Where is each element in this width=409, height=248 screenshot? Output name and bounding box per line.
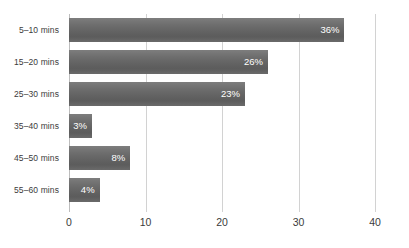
- category-label: 55–60 mins: [14, 184, 59, 196]
- category-label: 15–20 mins: [14, 56, 59, 68]
- value-axis-labels: 010203040: [69, 206, 375, 236]
- category-label: 35–40 mins: [14, 120, 59, 132]
- bar-slot: 23%: [69, 78, 375, 110]
- bar-value-label: 4%: [81, 178, 95, 202]
- category-label: 45–50 mins: [14, 152, 59, 164]
- bar-slot: 26%: [69, 46, 375, 78]
- bar[interactable]: 36%: [69, 18, 344, 42]
- bar-value-label: 3%: [73, 114, 87, 138]
- bar[interactable]: 23%: [69, 82, 245, 106]
- bar-value-label: 23%: [221, 82, 240, 106]
- bar-value-label: 36%: [320, 18, 339, 42]
- x-tick-label: 0: [66, 216, 72, 228]
- category-label: 5–10 mins: [19, 24, 59, 36]
- bar-slot: 3%: [69, 110, 375, 142]
- bar[interactable]: 4%: [69, 178, 100, 202]
- x-tick-label: 20: [216, 216, 228, 228]
- x-tick-label: 30: [293, 216, 305, 228]
- bar-slot: 4%: [69, 174, 375, 206]
- x-tick-label: 40: [369, 216, 381, 228]
- bar-value-label: 8%: [111, 146, 125, 170]
- bar[interactable]: 26%: [69, 50, 268, 74]
- bar-series: 36%26%23%3%8%4%: [69, 14, 375, 206]
- category-axis-labels: 5–10 mins15–20 mins25–30 mins35–40 mins4…: [0, 14, 64, 206]
- bar[interactable]: 3%: [69, 114, 92, 138]
- x-tick-label: 10: [140, 216, 152, 228]
- horizontal-bar-chart: 5–10 mins15–20 mins25–30 mins35–40 mins4…: [0, 0, 409, 248]
- bar-slot: 8%: [69, 142, 375, 174]
- category-label: 25–30 mins: [14, 88, 59, 100]
- bar[interactable]: 8%: [69, 146, 130, 170]
- bar-slot: 36%: [69, 14, 375, 46]
- bar-value-label: 26%: [244, 50, 263, 74]
- plot-area: 36%26%23%3%8%4%: [69, 14, 375, 206]
- gridline-40: [375, 14, 376, 212]
